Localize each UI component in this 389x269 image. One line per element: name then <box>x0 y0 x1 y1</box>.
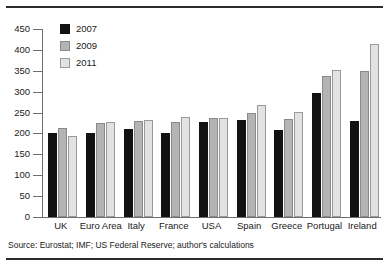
y-tick-label: 150 <box>14 148 30 159</box>
x-axis-label: Italy <box>117 220 155 232</box>
legend-label: 2007 <box>76 22 97 36</box>
y-tick-label: 450 <box>14 23 30 34</box>
bottom-divider-rule <box>6 258 383 260</box>
bar-group <box>199 29 228 217</box>
y-axis-tick: 150 <box>0 154 42 155</box>
y-tick-label: 0 <box>25 211 30 222</box>
y-tick-label: 350 <box>14 65 30 76</box>
y-axis-tick: 100 <box>0 175 42 176</box>
y-axis-tick: 450 <box>0 29 42 30</box>
y-tick-label: 400 <box>14 44 30 55</box>
x-axis-label: France <box>155 220 193 232</box>
bar <box>96 123 105 217</box>
bar <box>58 128 67 217</box>
top-divider-rule <box>6 6 383 8</box>
y-tick-mark <box>33 196 42 197</box>
y-axis-tick: 0 <box>0 217 42 218</box>
y-tick-mark <box>33 71 42 72</box>
figure-container: 450400350300250200150100500 UKEuro AreaI… <box>0 0 389 269</box>
y-tick-mark <box>33 133 42 134</box>
bar <box>144 120 153 217</box>
y-tick-mark <box>33 29 42 30</box>
x-axis-label: USA <box>193 220 231 232</box>
y-axis-tick: 400 <box>0 50 42 51</box>
legend-label: 2011 <box>76 56 96 70</box>
x-axis-label: UK <box>42 220 80 232</box>
y-tick-mark <box>33 92 42 93</box>
y-tick-label: 100 <box>14 169 30 180</box>
bar <box>48 133 57 217</box>
bar <box>86 133 95 217</box>
bar-group <box>350 29 379 217</box>
bar-group <box>124 29 153 217</box>
x-axis-line <box>42 217 381 218</box>
y-tick-mark <box>33 113 42 114</box>
x-axis-label: Portugal <box>306 220 344 232</box>
bar <box>171 122 180 217</box>
y-tick-mark <box>33 154 42 155</box>
bar <box>219 118 228 217</box>
y-axis-tick: 350 <box>0 71 42 72</box>
bar <box>181 117 190 217</box>
x-axis-label: Euro Area <box>80 220 118 232</box>
y-tick-mark <box>33 217 42 218</box>
bar <box>332 70 341 217</box>
y-axis-tick: 200 <box>0 133 42 134</box>
x-axis-label: Greece <box>268 220 306 232</box>
bar <box>284 119 293 217</box>
bar <box>322 76 331 217</box>
bar <box>294 112 303 217</box>
y-tick-mark <box>33 50 42 51</box>
bar-group <box>274 29 303 217</box>
legend-swatch-icon <box>60 41 70 51</box>
legend-swatch-icon <box>60 58 70 68</box>
bar <box>199 122 208 217</box>
bar-group <box>161 29 190 217</box>
legend-swatch-icon <box>60 24 70 34</box>
bar <box>360 71 369 217</box>
y-tick-label: 250 <box>14 107 30 118</box>
bar-group <box>312 29 341 217</box>
y-tick-mark <box>33 175 42 176</box>
bar <box>247 113 256 217</box>
bar <box>312 93 321 217</box>
bar <box>134 121 143 217</box>
bar <box>106 122 115 217</box>
y-axis-tick: 250 <box>0 113 42 114</box>
x-axis-label: Spain <box>230 220 268 232</box>
y-axis-tick: 300 <box>0 92 42 93</box>
y-tick-label: 50 <box>19 190 30 201</box>
y-tick-label: 200 <box>14 127 30 138</box>
source-note: Source: Eurostat; IMF; US Federal Reserv… <box>8 240 254 251</box>
bar <box>370 44 379 217</box>
bar <box>68 136 77 217</box>
legend-label: 2009 <box>76 39 97 53</box>
bar <box>161 133 170 217</box>
y-tick-label: 300 <box>14 86 30 97</box>
bar <box>237 120 246 217</box>
bar <box>209 118 218 217</box>
bar <box>350 121 359 217</box>
bar <box>257 105 266 217</box>
bar-group <box>237 29 266 217</box>
bar <box>274 130 283 217</box>
bar <box>124 129 133 217</box>
x-axis-label: Ireland <box>343 220 381 232</box>
y-axis-tick: 50 <box>0 196 42 197</box>
